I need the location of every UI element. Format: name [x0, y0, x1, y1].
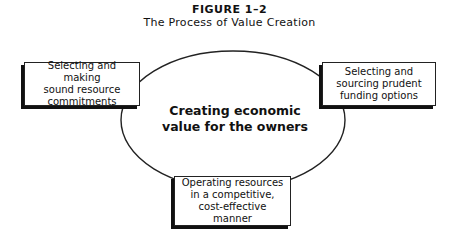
node-operating-resources: Operating resources in a competitive, co… — [174, 176, 291, 226]
node-left-line-3: commitments — [29, 96, 135, 108]
node-right-line-2: sourcing prudent — [336, 78, 421, 90]
node-left-line-2: sound resource — [29, 84, 135, 96]
node-right-line-1: Selecting and — [336, 66, 421, 78]
node-left-line-1: Selecting and making — [29, 60, 135, 84]
node-bottom-line-1: Operating resources — [179, 177, 286, 189]
node-bottom-line-2: in a competitive, — [179, 189, 286, 201]
center-line-2: value for the owners — [162, 119, 308, 134]
center-line-1: Creating economic — [169, 103, 300, 118]
node-resource-commitments: Selecting and making sound resource comm… — [24, 62, 140, 106]
center-concept: Creating economic value for the owners — [160, 103, 310, 135]
node-funding-options: Selecting and sourcing prudent funding o… — [322, 62, 436, 106]
node-bottom-line-3: cost-effective manner — [179, 201, 286, 225]
node-right-line-3: funding options — [336, 90, 421, 102]
